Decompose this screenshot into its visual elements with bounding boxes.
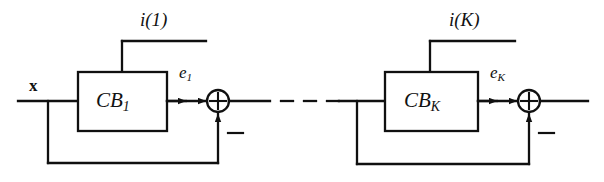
- control-input-path-1: [122, 41, 206, 72]
- error-signal-label-1-main: e: [179, 63, 187, 82]
- error-signal-label-1-sub: 1: [187, 71, 193, 83]
- control-input-label-k: i(K): [449, 10, 480, 29]
- error-signal-label-k: eK: [490, 64, 505, 81]
- codebook-block-1-label-main: CB: [96, 88, 123, 112]
- codebook-block-1-label-sub: 1: [123, 99, 130, 114]
- input-signal-label: x: [29, 77, 38, 94]
- error-signal-label-k-sub: K: [498, 71, 505, 83]
- control-input-label-1: i(1): [140, 10, 167, 29]
- codebook-block-1-label: CB1: [96, 90, 130, 111]
- codebook-block-k-label-main: CB: [404, 88, 431, 112]
- diagram-canvas: [0, 0, 604, 182]
- codebook-block-k-label: CBK: [404, 90, 440, 111]
- error-signal-label-k-main: e: [490, 63, 498, 82]
- error-signal-label-1: e1: [179, 64, 192, 81]
- codebook-block-k-label-sub: K: [431, 99, 440, 114]
- block-diagram-figure: i(1) x CB1 e1 i(K) CBK eK: [0, 0, 604, 182]
